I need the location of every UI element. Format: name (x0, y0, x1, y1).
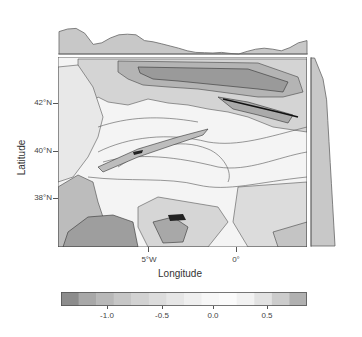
colorbar (61, 292, 307, 306)
colorbar-tick-05: 0.5 (252, 311, 282, 320)
x-tick-0: 0° (224, 255, 248, 264)
colorbar-tick-neg05: -0.5 (147, 311, 177, 320)
colorbar-tick-mark (267, 306, 268, 309)
y-tick-mark (53, 151, 58, 152)
x-tick-5w: 5°W (134, 255, 164, 264)
y-tick-mark (53, 198, 58, 199)
colorbar-tick-mark (213, 306, 214, 309)
colorbar-tick-mark (162, 306, 163, 309)
x-tick-mark (148, 247, 149, 252)
right-profile-panel (310, 57, 338, 247)
y-axis-label: Latitude (16, 133, 27, 183)
y-tick-42n: 42°N (28, 98, 52, 107)
top-profile-panel (58, 14, 308, 56)
contour-map (58, 57, 307, 247)
colorbar-tick-mark (107, 306, 108, 309)
y-tick-40n: 40°N (28, 146, 52, 155)
x-axis-label: Longitude (140, 268, 220, 279)
y-tick-38n: 38°N (28, 193, 52, 202)
y-tick-mark (53, 103, 58, 104)
colorbar-tick-0: 0.0 (198, 311, 228, 320)
colorbar-tick-neg1: -1.0 (92, 311, 122, 320)
right-profile-area (311, 58, 335, 246)
top-profile-area (59, 28, 307, 54)
x-tick-mark (236, 247, 237, 252)
